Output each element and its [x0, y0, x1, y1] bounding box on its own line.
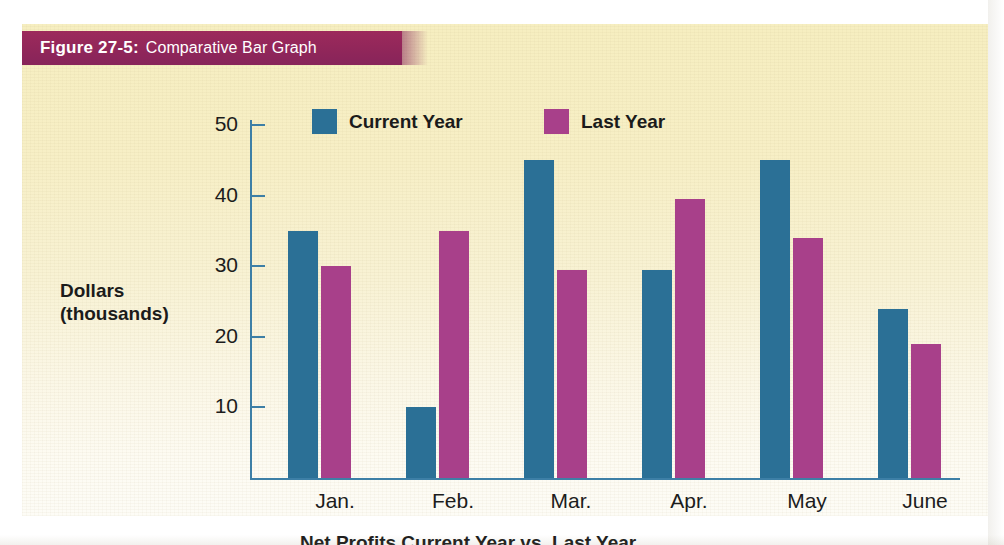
bar-current-year: [878, 309, 908, 478]
bar-current-year: [642, 270, 672, 478]
bar-current-year: [760, 160, 790, 478]
x-axis-tick-label: Mar.: [516, 489, 626, 513]
y-axis-tick-value: 10: [194, 394, 238, 418]
y-axis-tick-mark: [252, 265, 265, 267]
bar-current-year: [524, 160, 554, 478]
bar-current-year: [406, 407, 436, 478]
bar-group: [398, 118, 508, 478]
y-axis-tick-mark: [252, 336, 265, 338]
x-axis-tick-label: May: [752, 489, 862, 513]
y-axis-title-line2: (thousands): [60, 302, 210, 325]
bar-group: [870, 118, 980, 478]
bar-chart-plot-area: Dollars (thousands) 5040302010 Jan.Feb.M…: [22, 24, 988, 516]
y-axis-title: Dollars (thousands): [60, 279, 210, 325]
bar-last-year: [321, 266, 351, 478]
bar-current-year: [288, 231, 318, 478]
y-axis-tick-label: 30: [172, 253, 238, 277]
bar-last-year: [439, 231, 469, 478]
x-axis-tick-label: Feb.: [398, 489, 508, 513]
y-axis-tick-value: 20: [194, 324, 238, 348]
y-axis-tick-label: 50: [172, 112, 238, 136]
bar-group: [634, 118, 744, 478]
y-axis-tick-label: 20: [172, 324, 238, 348]
y-axis-tick-label: 10: [172, 394, 238, 418]
y-axis-tick-value: 50: [194, 112, 238, 136]
x-axis-tick-label: Jan.: [280, 489, 390, 513]
y-axis-tick-value: 30: [194, 253, 238, 277]
page-right-edge-shadow: [988, 0, 1004, 545]
y-axis-tick-label: 40: [172, 183, 238, 207]
x-axis-tick-label: June: [870, 489, 980, 513]
bar-group: [516, 118, 626, 478]
bar-last-year: [793, 238, 823, 478]
page-bottom-edge-shadow: [0, 535, 1004, 545]
bar-group: [752, 118, 862, 478]
y-axis-tick-mark: [252, 124, 265, 126]
y-axis-tick-mark: [252, 406, 265, 408]
figure-panel: Figure 27-5: Comparative Bar Graph Curre…: [22, 24, 988, 516]
bar-group: [280, 118, 390, 478]
x-axis-line: [250, 478, 960, 480]
figure-page: Figure 27-5: Comparative Bar Graph Curre…: [0, 0, 1004, 545]
y-axis-line: [250, 120, 252, 480]
y-axis-tick-mark: [252, 195, 265, 197]
y-axis-tick-value: 40: [194, 183, 238, 207]
bar-last-year: [911, 344, 941, 478]
y-axis-title-line1: Dollars: [60, 279, 210, 302]
bar-last-year: [675, 199, 705, 478]
x-axis-tick-label: Apr.: [634, 489, 744, 513]
bar-last-year: [557, 270, 587, 478]
